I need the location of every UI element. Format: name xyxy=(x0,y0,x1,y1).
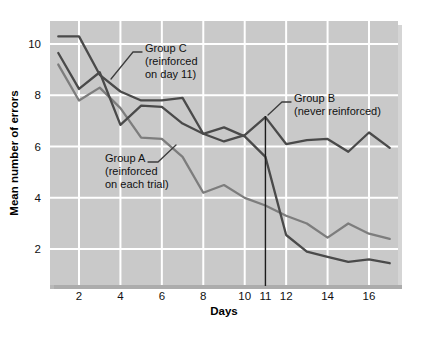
x-axis-tick-labels: 24681011121416 xyxy=(76,290,376,302)
figure-container: 246810 24681011121416 Group C(reinforced… xyxy=(0,0,421,339)
y-tick-label: 2 xyxy=(35,243,41,255)
x-tick-label: 16 xyxy=(363,290,376,302)
group-a-annotation-line: (reinforced xyxy=(105,165,158,177)
group-b-annotation-line: Group B xyxy=(294,92,335,104)
x-tick-label: 12 xyxy=(280,290,293,302)
group-c-annotation-line: (reinforced xyxy=(145,55,198,67)
x-tick-label: 8 xyxy=(200,290,206,302)
plot-background xyxy=(50,21,398,285)
line-chart: 246810 24681011121416 Group C(reinforced… xyxy=(0,0,421,339)
y-axis-title: Mean number of errors xyxy=(8,90,20,215)
x-axis-baseline xyxy=(50,285,402,289)
y-axis-tick-labels: 246810 xyxy=(28,38,41,255)
y-tick-label: 6 xyxy=(35,141,41,153)
group-a-annotation-line: on each trial) xyxy=(105,178,169,190)
x-tick-label: 2 xyxy=(76,290,82,302)
x-tick-label: 4 xyxy=(117,290,124,302)
group-b-annotation-line: (never reinforced) xyxy=(294,105,381,117)
x-tick-label: 10 xyxy=(238,290,251,302)
group-a-annotation-line: Group A xyxy=(105,152,146,164)
group-c-annotation-line: Group C xyxy=(145,42,187,54)
x-tick-label: 14 xyxy=(321,290,334,302)
y-tick-label: 8 xyxy=(35,89,41,101)
y-tick-label: 10 xyxy=(28,38,41,50)
y-tick-label: 4 xyxy=(35,192,42,204)
group-c-annotation-line: on day 11) xyxy=(145,68,196,80)
x-tick-label: 11 xyxy=(259,290,271,302)
x-axis-title: Days xyxy=(210,305,238,317)
x-tick-label: 6 xyxy=(159,290,165,302)
